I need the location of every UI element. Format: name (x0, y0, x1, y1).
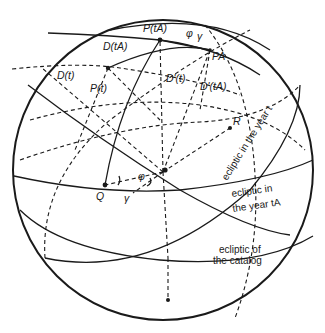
label-Q: Q (96, 190, 104, 202)
label-Dprime-tA: D'(tA) (200, 80, 227, 92)
label-PA: PA (212, 50, 225, 62)
label-R: R (233, 115, 241, 127)
radius-to-PtA (160, 40, 163, 172)
label-phi-top: φ (186, 27, 193, 39)
point-center (162, 167, 167, 172)
point-south-pole (166, 298, 170, 302)
label-P-t: P(t) (90, 82, 107, 94)
dashed-circle-4 (45, 30, 250, 258)
point-P-tA (158, 38, 163, 43)
dash-Pt-right (108, 68, 160, 120)
label-gamma-bottom: γ (124, 192, 130, 204)
label-ecliptic-catalog-2: the catalog (213, 255, 262, 266)
label-P-tA: P(tA) (143, 22, 167, 34)
radius-to-PA (163, 50, 210, 172)
sphere-diagram: P(tA) PA D(tA) D(t) P(t) D'(t) D'(tA) R … (0, 0, 325, 333)
great-circle-curve (28, 85, 290, 235)
point-P-t (106, 66, 110, 70)
point-R (228, 126, 232, 130)
label-ecliptic-catalog-1: ecliptic of (219, 244, 261, 255)
point-Q (103, 183, 108, 188)
radius-to-R (163, 128, 230, 172)
label-phi-center: φ (138, 170, 145, 182)
label-D-t: D(t) (57, 69, 75, 81)
label-Dprime-t: D'(t) (166, 72, 186, 84)
label-ecliptic-year-tA-1: ecliptic in (231, 182, 273, 199)
celestial-sphere-figure: P(tA) PA D(tA) D(t) P(t) D'(t) D'(tA) R … (0, 0, 325, 333)
label-D-tA: D(tA) (103, 40, 128, 52)
arc-D-tA (48, 33, 260, 75)
angle-gamma-bottom-arc (118, 176, 120, 185)
label-gamma-top: γ (197, 30, 203, 42)
meridian-curve (105, 40, 160, 185)
